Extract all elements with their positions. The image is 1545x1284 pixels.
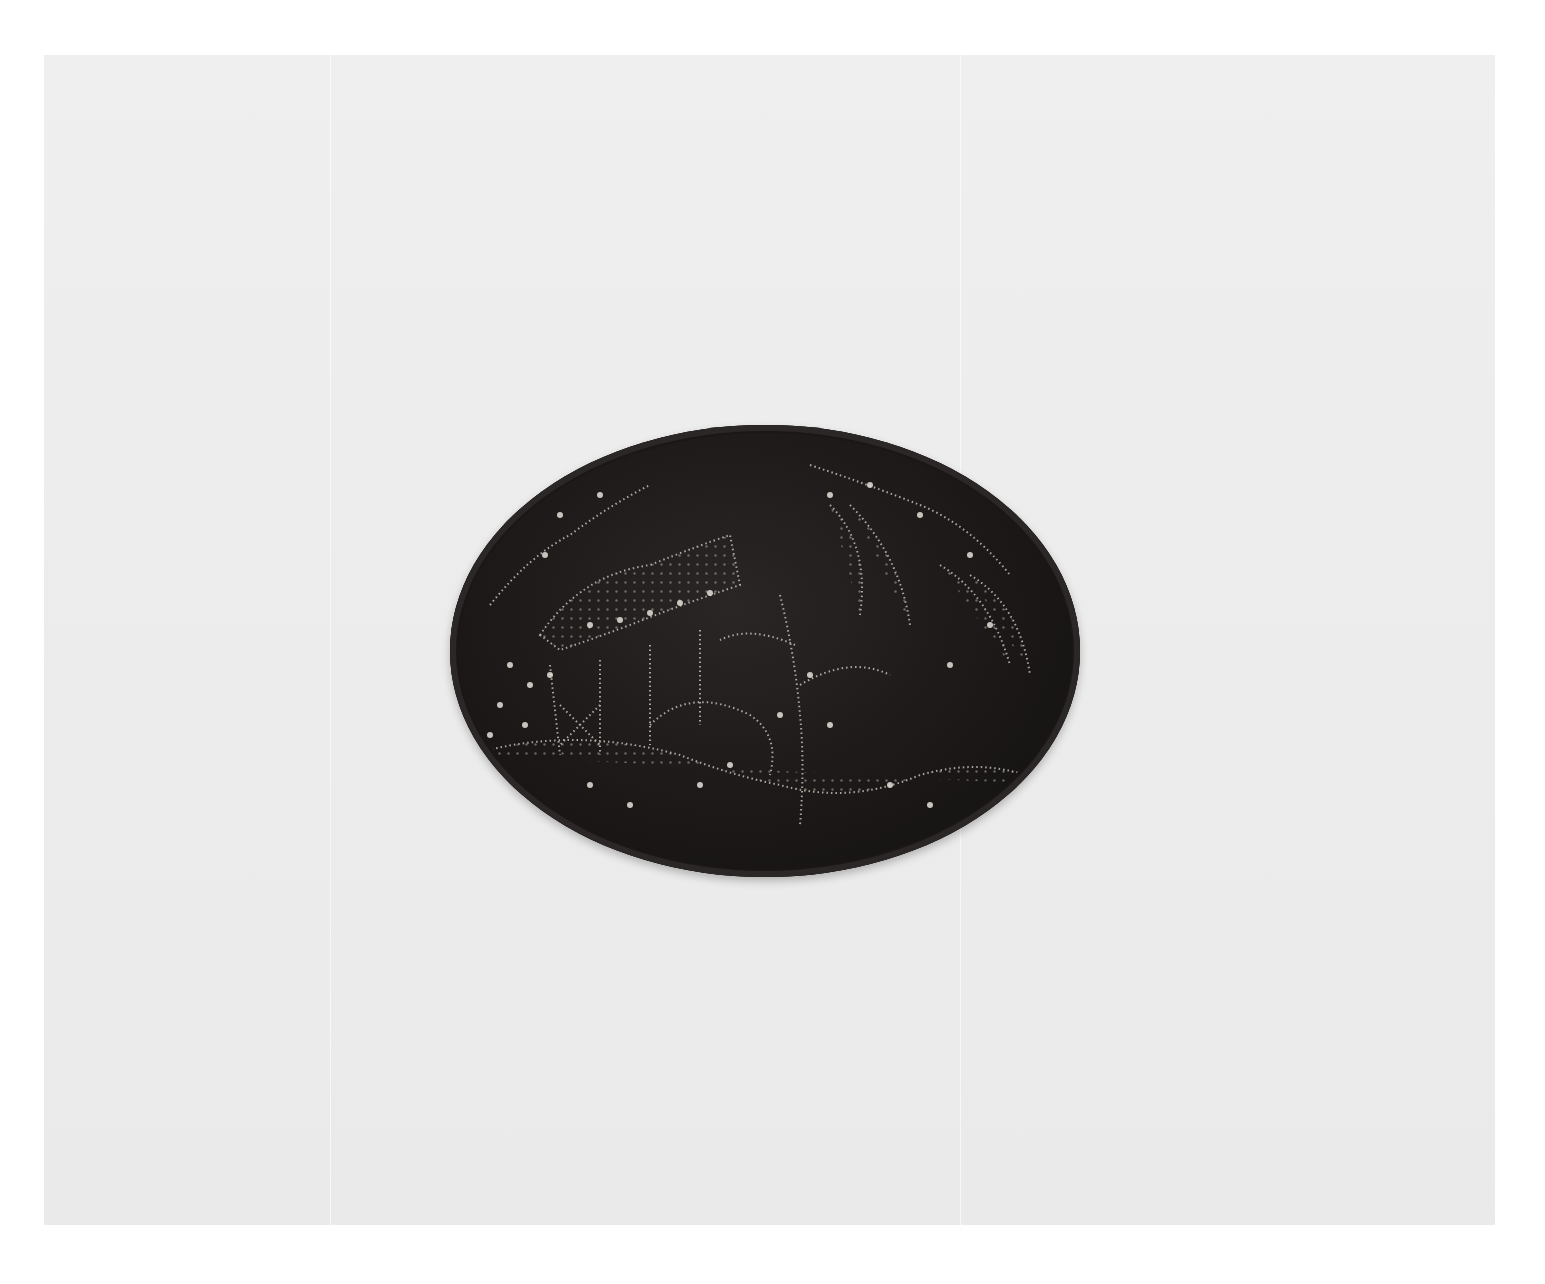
oval-pique-box xyxy=(450,425,1080,877)
inlay-pattern xyxy=(450,425,1080,877)
backdrop-seam xyxy=(330,55,331,1225)
